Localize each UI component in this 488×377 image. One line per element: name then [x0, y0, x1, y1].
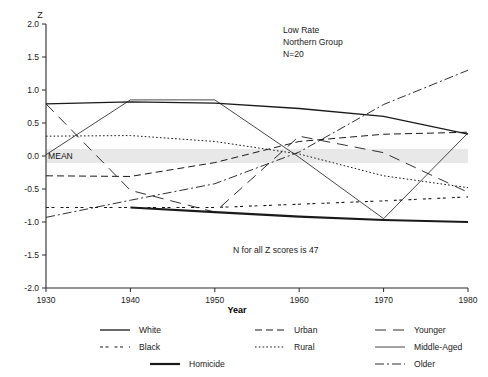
y-axis-ticks: 2.01.51.00.50.0-0.5-1.0-1.5-2.0	[24, 19, 46, 293]
y-tick-label: 1.0	[27, 85, 39, 95]
y-axis-title: Z	[37, 10, 43, 20]
legend-label-older: Older	[414, 359, 435, 369]
legend-label-urban: Urban	[294, 325, 318, 335]
x-tick-label: 1930	[37, 295, 56, 305]
x-tick-label: 1970	[374, 295, 393, 305]
mean-band	[46, 149, 468, 163]
x-tick-label: 1960	[290, 295, 309, 305]
mean-label: MEAN	[48, 151, 73, 161]
x-tick-label: 1940	[121, 295, 140, 305]
legend-label-rural: Rural	[294, 342, 315, 352]
legend-label-younger: Younger	[414, 325, 446, 335]
legend-label-middle-aged: Middle-Aged	[414, 342, 462, 352]
series-line-black	[46, 197, 468, 208]
x-axis-ticks: 193019401950196019701980	[37, 288, 478, 305]
annotation-n-value: N=20	[283, 49, 304, 59]
chart-legend: WhiteBlackUrbanRuralYoungerMiddle-AgedHo…	[100, 325, 462, 369]
series-line-older	[46, 70, 468, 217]
annotation-low-rate: Low Rate	[283, 25, 320, 35]
legend-label-homicide: Homicide	[189, 359, 225, 369]
y-tick-label: 0.0	[27, 151, 39, 161]
y-tick-label: -0.5	[24, 184, 39, 194]
x-axis-title: Year	[227, 305, 247, 315]
annotation-top-right: Low Rate Northern Group N=20	[283, 25, 343, 59]
y-tick-label: 2.0	[27, 19, 39, 29]
y-tick-label: 1.5	[27, 52, 39, 62]
legend-label-white: White	[139, 325, 161, 335]
legend-label-black: Black	[139, 342, 161, 352]
data-series-group	[46, 70, 468, 222]
y-tick-label: -2.0	[24, 283, 39, 293]
series-line-white	[46, 102, 468, 134]
z-score-line-chart: 2.01.51.00.50.0-0.5-1.0-1.5-2.0 19301940…	[0, 0, 488, 377]
x-tick-label: 1980	[459, 295, 478, 305]
y-tick-label: -1.5	[24, 250, 39, 260]
y-tick-label: 0.5	[27, 118, 39, 128]
annotation-n-all-z: N for all Z scores is 47	[233, 245, 319, 255]
chart-container: 2.01.51.00.50.0-0.5-1.0-1.5-2.0 19301940…	[0, 0, 488, 377]
y-tick-label: -1.0	[24, 217, 39, 227]
annotation-northern-group: Northern Group	[283, 37, 343, 47]
series-line-homicide	[130, 207, 468, 222]
x-tick-label: 1950	[205, 295, 224, 305]
